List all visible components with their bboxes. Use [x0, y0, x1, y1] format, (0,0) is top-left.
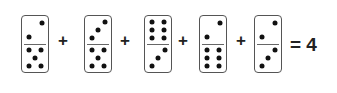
pip — [27, 63, 32, 68]
pip — [204, 35, 209, 40]
domino-3 — [144, 15, 172, 73]
domino-2-bottom-half — [85, 44, 111, 72]
pip — [102, 20, 107, 25]
pip — [205, 47, 210, 52]
pip — [205, 64, 210, 69]
pip — [216, 56, 221, 61]
domino-2-top-half — [85, 16, 111, 44]
pip — [156, 56, 161, 61]
domino-4-bottom-half — [200, 44, 226, 72]
domino-divider — [202, 44, 224, 45]
pip — [38, 63, 43, 68]
pip — [96, 28, 101, 33]
domino-4-top-half — [200, 16, 226, 44]
plus-sign-3: + — [178, 32, 188, 49]
pip — [161, 19, 166, 24]
pip — [150, 36, 155, 41]
domino-2 — [84, 15, 112, 73]
domino-5-bottom-half — [255, 44, 281, 72]
pip — [39, 21, 44, 26]
domino-divider — [257, 44, 279, 45]
pip — [27, 48, 32, 53]
pip — [266, 56, 271, 61]
domino-divider — [87, 44, 109, 45]
pip — [150, 19, 155, 24]
result-text: = 4 — [290, 35, 317, 54]
pip — [161, 28, 166, 33]
pip — [272, 48, 277, 53]
pip — [161, 36, 166, 41]
domino-puzzle: + + + + = 4 — [0, 0, 337, 93]
pip — [90, 48, 95, 53]
domino-divider — [24, 44, 46, 45]
pip — [150, 28, 155, 33]
domino-5-top-half — [255, 16, 281, 44]
domino-3-top-half — [145, 16, 171, 44]
pip — [90, 63, 95, 68]
domino-4 — [199, 15, 227, 73]
domino-3-bottom-half — [145, 44, 171, 72]
pip — [149, 63, 154, 68]
domino-divider — [147, 44, 169, 45]
pip — [272, 21, 277, 26]
pip — [38, 48, 43, 53]
pip — [259, 63, 264, 68]
pip — [33, 56, 38, 61]
plus-sign-2: + — [120, 32, 130, 49]
pip — [89, 35, 94, 40]
domino-5 — [254, 15, 282, 73]
domino-1-bottom-half — [22, 44, 48, 72]
pip — [216, 47, 221, 52]
pip — [259, 35, 264, 40]
pip — [26, 35, 31, 40]
pip — [96, 56, 101, 61]
pip — [217, 21, 222, 26]
pip — [162, 48, 167, 53]
pip — [216, 64, 221, 69]
domino-1 — [21, 15, 49, 73]
pip — [205, 56, 210, 61]
pip — [101, 63, 106, 68]
domino-1-top-half — [22, 16, 48, 44]
plus-sign-1: + — [58, 32, 68, 49]
plus-sign-4: + — [236, 32, 246, 49]
pip — [101, 48, 106, 53]
